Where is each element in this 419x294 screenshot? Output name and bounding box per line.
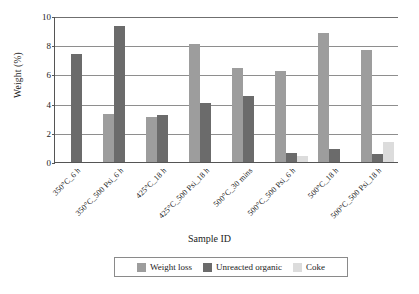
bar-group [98, 17, 141, 162]
legend-swatch-icon [137, 263, 146, 272]
bar [157, 115, 168, 162]
bars-layer [55, 17, 398, 162]
bar [297, 156, 308, 162]
legend-entry: Coke [293, 262, 325, 272]
x-tick-label: 500°C_18 h [306, 166, 340, 200]
y-tick-label: 10 [42, 12, 51, 22]
bar-group [356, 17, 399, 162]
chart-legend: Weight lossUnreacted organicCoke [114, 257, 348, 277]
x-tick-label: 425°C_18 h [134, 166, 168, 200]
bar-group [141, 17, 184, 162]
plot-area: 0246810 [54, 17, 398, 163]
bar [103, 114, 114, 162]
legend-entry: Unreacted organic [203, 262, 282, 272]
legend-label: Weight loss [150, 262, 192, 272]
bar [71, 54, 82, 162]
bar [383, 142, 394, 162]
bar [200, 103, 211, 162]
bar [361, 50, 372, 162]
bar [146, 117, 157, 162]
y-tick-label: 0 [47, 158, 52, 168]
bar [372, 154, 383, 162]
y-tick-label: 2 [47, 129, 52, 139]
bar [189, 44, 200, 162]
bar-group [55, 17, 98, 162]
bar [243, 96, 254, 162]
legend-label: Coke [306, 262, 325, 272]
y-tick-label: 8 [47, 41, 52, 51]
bar [114, 26, 125, 163]
x-tick-label: 350°C_6 h [50, 166, 81, 197]
legend-label: Unreacted organic [216, 262, 282, 272]
y-axis-title: Weight (%) [13, 35, 23, 115]
bar-group [270, 17, 313, 162]
bar-group [313, 17, 356, 162]
legend-swatch-icon [293, 263, 302, 272]
bar-group [184, 17, 227, 162]
x-tick-label: 500°C_30 mins [211, 166, 254, 209]
bar [329, 149, 340, 162]
bar-chart: Weight (%) 0246810 350°C_6 h350°C_500 Ps… [0, 0, 419, 294]
bar [286, 153, 297, 162]
bar [318, 33, 329, 162]
y-tick-label: 6 [47, 70, 52, 80]
bar [275, 71, 286, 162]
bar [232, 68, 243, 162]
bar-group [227, 17, 270, 162]
legend-entry: Weight loss [137, 262, 192, 272]
x-axis-tick-labels: 350°C_6 h350°C_500 Psi_6 h425°C_18 h425°… [54, 164, 398, 244]
x-axis-title: Sample ID [0, 233, 419, 244]
y-tick-label: 4 [47, 100, 52, 110]
legend-swatch-icon [203, 263, 212, 272]
